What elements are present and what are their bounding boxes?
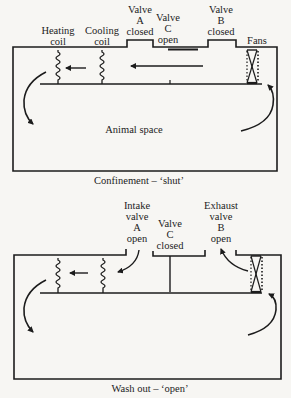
fans-label: Fans bbox=[247, 35, 267, 46]
exhaust-arrow bbox=[221, 249, 248, 271]
exhaust-valve-b-label: Exhaust valve B open bbox=[204, 200, 238, 244]
fan-icon bbox=[247, 50, 258, 83]
ventilation-diagram bbox=[0, 0, 291, 398]
heating-coil-label: Heating coil bbox=[41, 25, 74, 47]
confinement-caption: Confinement – ‘shut’ bbox=[94, 175, 184, 186]
valve-b-label: Valve B closed bbox=[208, 4, 235, 37]
confinement-panel bbox=[13, 40, 277, 171]
valve-c-label: Valve C open bbox=[156, 12, 180, 45]
cooling-coil-icon bbox=[101, 258, 105, 293]
intake-arrow bbox=[118, 250, 139, 272]
building-outline bbox=[13, 40, 277, 171]
wash-out-caption: Wash out – ‘open’ bbox=[111, 383, 188, 394]
heating-coil-icon bbox=[56, 258, 60, 293]
airflow-arrow-left bbox=[24, 72, 46, 124]
heating-coil-icon bbox=[56, 50, 60, 84]
animal-space-label: Animal space bbox=[105, 124, 162, 135]
intake-valve-a-label: Intake valve A open bbox=[124, 200, 150, 244]
valve-c-label: Valve C closed bbox=[157, 218, 184, 251]
airflow-arrow-right bbox=[248, 294, 276, 335]
wash-out-panel bbox=[14, 249, 281, 379]
valve-a-label: Valve A closed bbox=[127, 4, 154, 37]
fan-icon bbox=[251, 256, 262, 292]
cooling-coil-icon bbox=[100, 50, 104, 84]
airflow-arrow-right bbox=[241, 85, 273, 131]
airflow-arrow-left bbox=[24, 280, 46, 332]
cooling-coil-label: Cooling coil bbox=[85, 25, 119, 47]
